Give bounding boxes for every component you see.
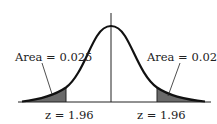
left-area-label: Area = 0.025 (14, 50, 92, 64)
right-pointer (168, 63, 180, 96)
right-area-label: Area = 0.025 (146, 50, 217, 64)
normal-curve-diagram: Area = 0.025 Area = 0.025 z = 1.96 z = 1… (0, 0, 217, 124)
right-z-label: z = 1.96 (137, 108, 186, 122)
left-pointer (42, 63, 52, 94)
left-z-label: z = 1.96 (45, 108, 94, 122)
